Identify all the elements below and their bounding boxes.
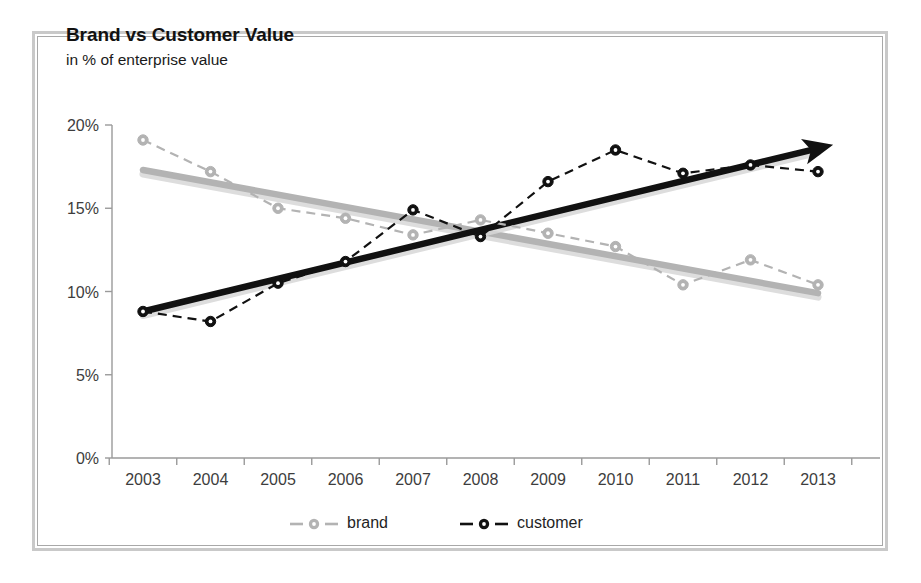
data-point-brand — [273, 203, 283, 213]
chart-legend: brandcustomer — [290, 514, 583, 531]
x-tick-label: 2013 — [800, 471, 836, 488]
series-line-brand — [143, 140, 818, 285]
data-point-customer — [205, 316, 215, 326]
data-point-customer — [273, 278, 283, 288]
x-tick-label: 2004 — [193, 471, 229, 488]
data-point-customer — [340, 256, 350, 266]
data-point-brand — [475, 215, 485, 225]
data-point-customer — [813, 166, 823, 176]
data-point-brand — [610, 241, 620, 251]
customer-trend — [143, 148, 818, 311]
x-axis: 2003200420052006200720082009201020112012… — [109, 458, 880, 488]
y-axis: 0%5%10%15%20% — [67, 117, 112, 467]
x-tick-label: 2009 — [530, 471, 566, 488]
data-point-customer — [138, 306, 148, 316]
data-point-brand — [138, 135, 148, 145]
data-point-customer — [408, 205, 418, 215]
y-tick-label: 5% — [76, 367, 99, 384]
data-point-customer — [678, 168, 688, 178]
data-point-customer — [745, 160, 755, 170]
x-tick-label: 2008 — [463, 471, 499, 488]
x-tick-label: 2003 — [125, 471, 161, 488]
y-tick-label: 0% — [76, 450, 99, 467]
x-tick-label: 2007 — [395, 471, 431, 488]
x-tick-label: 2005 — [260, 471, 296, 488]
data-point-brand — [745, 255, 755, 265]
data-point-brand — [205, 166, 215, 176]
y-tick-label: 10% — [67, 284, 99, 301]
data-point-brand — [340, 213, 350, 223]
legend-label: customer — [517, 514, 583, 531]
legend-item-brand: brand — [290, 514, 388, 531]
x-tick-label: 2010 — [598, 471, 634, 488]
data-point-brand — [678, 280, 688, 290]
data-point-customer — [475, 231, 485, 241]
legend-label: brand — [347, 514, 388, 531]
x-tick-label: 2006 — [328, 471, 364, 488]
data-point-customer — [610, 145, 620, 155]
y-tick-label: 15% — [67, 200, 99, 217]
legend-item-customer: customer — [460, 514, 583, 531]
data-point-brand — [408, 230, 418, 240]
chart-plot: 0%5%10%15%20% 20032004200520062007200820… — [0, 0, 921, 583]
x-tick-label: 2012 — [733, 471, 769, 488]
data-point-customer — [543, 176, 553, 186]
data-point-brand — [813, 280, 823, 290]
data-point-brand — [543, 228, 553, 238]
x-tick-label: 2011 — [666, 471, 701, 488]
y-tick-label: 20% — [67, 117, 99, 134]
